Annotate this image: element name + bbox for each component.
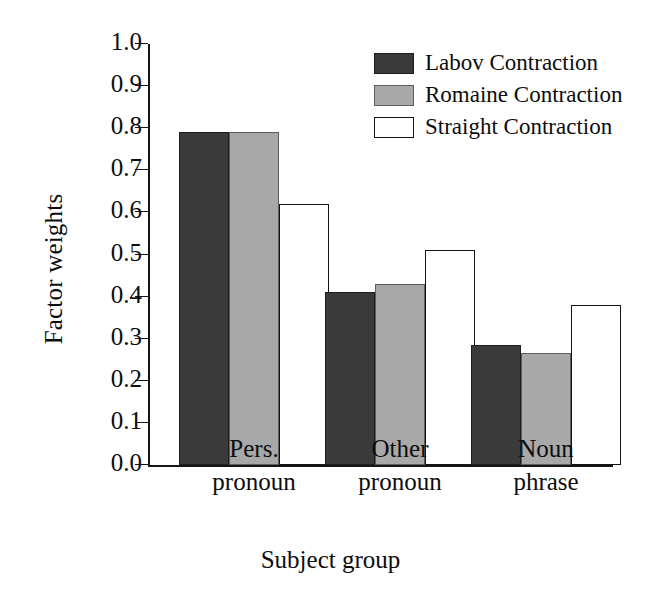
y-axis-tick: 0.3 (148, 338, 149, 339)
legend-swatch-icon (374, 85, 414, 106)
y-axis-tick: 0.4 (148, 296, 149, 297)
y-axis-tick-label: 0.4 (111, 281, 142, 309)
y-axis-tick: 0.7 (148, 169, 149, 170)
y-axis-tick-label: 0.5 (111, 239, 142, 267)
y-axis-tick: 0.1 (148, 422, 149, 423)
legend-label: Straight Contraction (425, 114, 612, 140)
y-axis-tick-label: 0.1 (111, 407, 142, 435)
bar (279, 204, 329, 465)
legend-item: Labov Contraction (374, 47, 649, 79)
y-axis-tick-label: 1.0 (111, 28, 142, 56)
y-axis-title: Factor weights (40, 129, 68, 409)
y-axis-tick-label: 0.9 (111, 70, 142, 98)
x-axis-title: Subject group (0, 546, 661, 574)
y-axis-tick-label: 0.3 (111, 323, 142, 351)
bar-chart-figure: Factor weights 0.00.10.20.30.40.50.60.70… (0, 0, 661, 606)
legend-item: Romaine Contraction (374, 79, 649, 111)
legend-label: Labov Contraction (425, 50, 598, 76)
y-axis-tick-label: 0.7 (111, 154, 142, 182)
y-axis-tick: 0.6 (148, 211, 149, 212)
legend-label: Romaine Contraction (425, 82, 622, 108)
y-axis-tick-label: 0.0 (111, 449, 142, 477)
y-axis-tick-label: 0.8 (111, 112, 142, 140)
legend-item: Straight Contraction (374, 111, 649, 143)
y-axis-tick-label: 0.2 (111, 365, 142, 393)
y-axis-tick-label: 0.6 (111, 196, 142, 224)
x-axis-category-label: Nounphrase (436, 432, 656, 498)
y-axis-tick: 0.5 (148, 254, 149, 255)
y-axis-tick: 1.0 (148, 43, 149, 44)
y-axis-tick: 0.8 (148, 127, 149, 128)
chart-legend: Labov ContractionRomaine ContractionStra… (374, 47, 649, 143)
x-axis-category-label-line: Noun (436, 432, 656, 465)
y-axis-tick: 0.2 (148, 380, 149, 381)
x-axis-category-label-line: phrase (436, 465, 656, 498)
legend-swatch-icon (374, 53, 414, 74)
y-axis-line (148, 44, 150, 465)
bar (179, 132, 229, 465)
bar (229, 132, 279, 465)
legend-swatch-icon (374, 117, 414, 138)
y-axis-tick: 0.9 (148, 85, 149, 86)
